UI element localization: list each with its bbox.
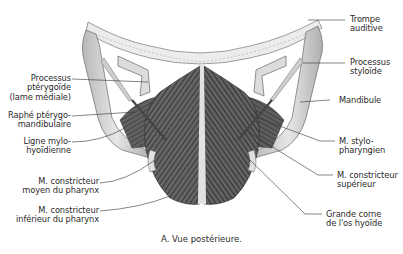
label-ligne-mylo-hyoidienne: Ligne mylo- hyoïdienne [23, 137, 71, 156]
figure-caption: A. Vue postérieure. [0, 234, 403, 244]
label-grande-corne-hyoide: Grande corne de l'os hyoïde [326, 210, 382, 229]
label-constricteur-superieur: M. constricteur supérieur [337, 171, 398, 190]
label-constricteur-inferieur: M. constricteur inférieur du pharynx [16, 206, 99, 225]
constrictor-right [204, 66, 259, 204]
label-processus-pterygoide: Processus ptérygoïde (lame médiale) [9, 74, 71, 102]
label-constricteur-moyen: M. constricteur moyen du pharynx [22, 177, 99, 196]
label-raphe-pterygo-mandibulaire: Raphé ptérygo- mandibulaire [8, 111, 71, 130]
label-processus-styloide: Processus styloïde [350, 58, 390, 77]
constrictor-left [145, 66, 200, 204]
label-mandibule: Mandibule [339, 96, 381, 105]
anatomical-figure: Processus ptérygoïde (lame médiale) Raph… [0, 0, 403, 254]
label-stylo-pharyngien: M. stylo- pharyngien [339, 137, 385, 156]
label-trompe-auditive: Trompe auditive [350, 15, 383, 34]
